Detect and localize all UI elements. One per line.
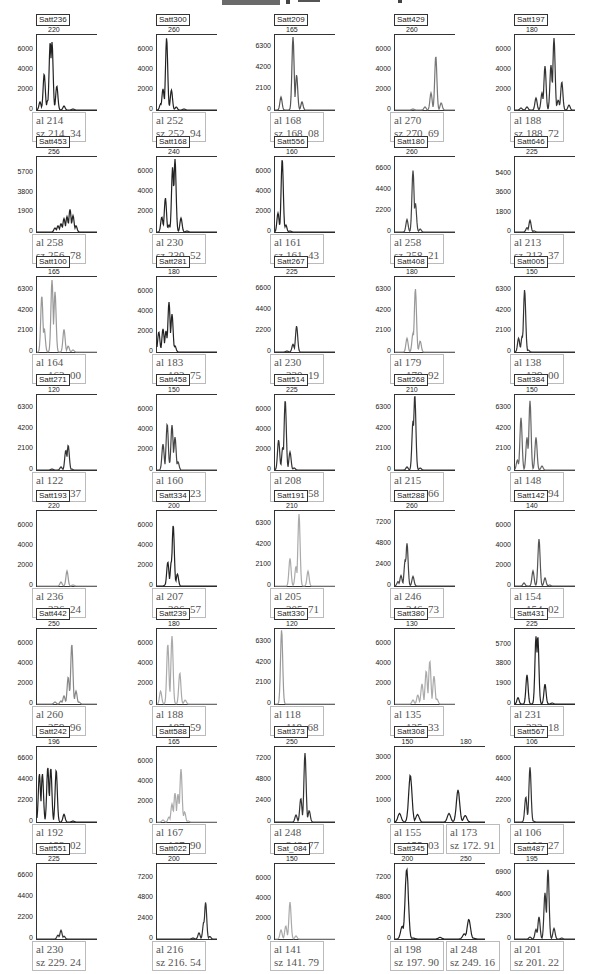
plot-area — [394, 746, 485, 823]
y-tick-label: 0 — [245, 465, 271, 472]
size-call: sz 216. 54 — [156, 956, 201, 969]
peak-trace — [37, 395, 97, 470]
y-tick-label: 6300 — [485, 285, 511, 292]
allele-call: al 167 — [156, 826, 201, 839]
x-tick-label: 165 — [286, 26, 298, 33]
x-tick-label: 220 — [48, 502, 60, 509]
header-glyph — [298, 0, 320, 2]
y-tick-label: 0 — [7, 105, 33, 112]
x-tick-label: 165 — [48, 268, 60, 275]
y-tick-label: 6600 — [7, 871, 33, 878]
marker-tag: Satt345 — [394, 843, 428, 855]
y-tick-label: 2000 — [127, 207, 153, 214]
y-tick-label: 4200 — [245, 540, 271, 547]
x-tick-label: 130 — [406, 620, 418, 627]
y-tick-label: 0 — [7, 347, 33, 354]
y-tick-label: 0 — [7, 581, 33, 588]
y-tick-label: 4000 — [365, 659, 391, 666]
y-tick-label: 0 — [245, 347, 271, 354]
peak-trace — [275, 747, 335, 822]
size-call: sz 197. 90 — [394, 956, 439, 969]
y-tick-label: 0 — [485, 699, 511, 706]
x-tick-label: 210 — [286, 502, 298, 509]
peak-trace — [395, 277, 455, 352]
peak-trace — [515, 747, 575, 822]
allele-call: al 248 — [450, 943, 495, 956]
plot-area — [514, 276, 575, 353]
allele-size-label: al 198sz 197. 90 — [390, 941, 444, 971]
allele-call: al 231 — [514, 708, 559, 721]
x-tick-label: 260 — [406, 502, 418, 509]
marker-tag: Satt239 — [156, 608, 190, 620]
y-tick-label: 6000 — [127, 167, 153, 174]
y-tick-label: 4000 — [7, 659, 33, 666]
y-tick-label: 0 — [365, 105, 391, 112]
y-tick-label: 0 — [485, 227, 511, 234]
allele-call: al 106 — [514, 826, 559, 839]
y-tick-label: 0 — [485, 581, 511, 588]
allele-size-label: al 141sz 141. 79 — [270, 941, 324, 971]
y-tick-label: 2000 — [127, 327, 153, 334]
x-tick-label: 225 — [286, 268, 298, 275]
marker-tag: Satt453 — [36, 136, 70, 148]
y-tick-label: 1900 — [485, 679, 511, 686]
allele-call: al 138 — [514, 356, 559, 369]
y-tick-label: 7200 — [245, 754, 271, 761]
y-tick-label: 6300 — [7, 285, 33, 292]
plot-area — [36, 34, 97, 111]
y-tick-label: 6000 — [7, 639, 33, 646]
y-tick-label: 6000 — [127, 405, 153, 412]
plot-area — [394, 863, 485, 940]
peak-trace — [395, 747, 485, 822]
y-tick-label: 6300 — [245, 42, 271, 49]
y-tick-label: 2000 — [127, 85, 153, 92]
y-tick-label: 2000 — [7, 561, 33, 568]
x-tick-label: 200 — [402, 855, 414, 862]
y-tick-label: 6600 — [7, 754, 33, 761]
marker-tag: Satt408 — [394, 256, 428, 268]
y-tick-label: 6000 — [7, 45, 33, 52]
plot-area — [394, 628, 455, 705]
marker-tag: Satt384 — [514, 374, 548, 386]
y-tick-label: 0 — [7, 465, 33, 472]
marker-tag: Satt191 — [274, 490, 308, 502]
y-tick-label: 2000 — [365, 85, 391, 92]
x-tick-label: 200 — [168, 502, 180, 509]
y-tick-label: 4200 — [245, 63, 271, 70]
peak-trace — [395, 511, 455, 586]
peak-trace — [37, 629, 97, 704]
y-tick-label: 2000 — [127, 561, 153, 568]
size-call: sz 229. 24 — [36, 956, 81, 969]
plot-area — [514, 394, 575, 471]
x-tick-label: 250 — [48, 620, 60, 627]
y-tick-label: 2000 — [485, 85, 511, 92]
marker-tag: Satt458 — [156, 374, 190, 386]
y-tick-label: 6000 — [365, 45, 391, 52]
peak-trace — [37, 277, 97, 352]
y-tick-label: 2200 — [7, 913, 33, 920]
y-tick-label: 0 — [485, 465, 511, 472]
allele-call: al 122 — [36, 474, 81, 487]
marker-tag: Satt142 — [514, 490, 548, 502]
y-tick-label: 4000 — [365, 65, 391, 72]
peak-trace — [275, 157, 335, 232]
allele-call: al 135 — [394, 708, 439, 721]
y-tick-label: 2100 — [7, 444, 33, 451]
marker-tag: Satt442 — [36, 608, 70, 620]
marker-tag: Satt300 — [156, 14, 190, 26]
plot-area — [36, 394, 97, 471]
allele-call: al 161 — [274, 236, 319, 249]
y-tick-label: 4400 — [365, 185, 391, 192]
x-tick-label: 120 — [286, 620, 298, 627]
y-tick-label: 2000 — [7, 679, 33, 686]
marker-tag: Satt429 — [394, 14, 428, 26]
marker-tag: Satt646 — [514, 136, 548, 148]
y-tick-label: 4000 — [7, 541, 33, 548]
peak-trace — [275, 629, 335, 704]
y-tick-label: 2100 — [365, 326, 391, 333]
allele-call: al 154 — [514, 590, 559, 603]
marker-tag: Satt288 — [394, 490, 428, 502]
marker-tag: Satt180 — [394, 136, 428, 148]
y-tick-label: 2200 — [365, 206, 391, 213]
peak-trace — [395, 395, 455, 470]
